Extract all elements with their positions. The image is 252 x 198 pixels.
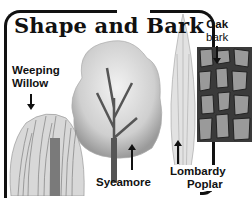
sycamore-arrow-icon — [131, 148, 133, 170]
weeping-willow-illustration — [6, 108, 86, 196]
lombardy-poplar-arrow-icon — [177, 144, 179, 164]
lombardy-poplar-label-line2: Poplar — [170, 178, 226, 191]
oak-bark-label-line1: Oak — [206, 18, 228, 31]
oak-bark-arrow-icon — [216, 46, 218, 60]
oak-bark-illustration — [197, 47, 252, 142]
lombardy-poplar-label: Lombardy Poplar — [170, 165, 226, 191]
weeping-willow-label: Weeping Willow — [12, 64, 60, 90]
page-title: Shape and Bark — [14, 13, 204, 38]
lombardy-poplar-label-line1: Lombardy — [170, 165, 226, 178]
weeping-willow-label-line1: Weeping — [12, 64, 60, 77]
oak-bark-label: Oak bark — [206, 18, 228, 44]
weeping-willow-arrow-icon — [30, 94, 32, 106]
weeping-willow-label-line2: Willow — [12, 77, 60, 90]
sycamore-label: Sycamore — [96, 176, 151, 189]
oak-bark-label-line2: bark — [206, 31, 228, 43]
